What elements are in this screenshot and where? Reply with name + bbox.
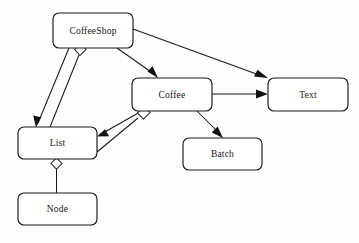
arrow-head-coffeeshop-text [254,70,268,78]
node-layer: CoffeeShop Coffee Text List Batch Node [18,13,348,225]
aggregation-diamond-list [51,158,62,169]
node-label-coffeeshop: CoffeeShop [69,26,116,36]
class-diagram-canvas: CoffeeShop Coffee Text List Batch Node [0,0,359,243]
edge-coffee-to-list [97,112,140,137]
node-label-list: List [50,138,66,148]
edge-coffee-to-text [212,89,268,98]
edge-line-coffeeshop-agg-list [50,55,79,127]
node-label-batch: Batch [211,149,234,159]
node-label-coffee: Coffee [159,90,186,100]
edge-list-aggregates-node [51,158,62,193]
edge-line-coffeeshop-coffee [117,48,154,74]
edge-coffee-to-batch [197,111,223,138]
edge-line-coffeeshop-list [38,48,69,123]
edge-coffeeshop-aggregates-list [50,44,86,128]
node-list[interactable]: List [18,127,97,159]
edge-coffeeshop-to-coffee [117,48,158,78]
arrow-head-coffeeshop-coffee [147,66,158,78]
arrow-head-coffeeshop-list [33,115,41,127]
node-batch[interactable]: Batch [183,138,262,170]
node-text[interactable]: Text [268,78,348,111]
class-diagram-svg: CoffeeShop Coffee Text List Batch Node [0,0,359,243]
node-label-node: Node [47,204,68,214]
arrow-head-coffee-text [256,89,268,98]
node-node[interactable]: Node [18,193,97,225]
node-label-text: Text [299,90,317,100]
arrow-head-coffee-batch [212,127,223,138]
edge-coffeeshop-to-list [33,48,69,128]
edge-line-coffee-list [103,112,140,133]
node-coffee[interactable]: Coffee [132,78,212,111]
node-coffeeshop[interactable]: CoffeeShop [53,13,133,48]
